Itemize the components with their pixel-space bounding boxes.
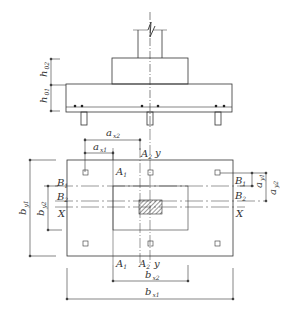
svg-text:by2: by2: [35, 201, 48, 216]
svg-text:by1: by1: [17, 200, 30, 215]
pile-right: [215, 112, 221, 125]
svg-text:bx1: bx1: [145, 286, 160, 298]
svg-text:y: y: [154, 147, 161, 158]
svg-text:X: X: [235, 208, 244, 219]
svg-text:B2: B2: [56, 191, 68, 203]
pile-left: [81, 112, 87, 125]
svg-text:h02: h02: [38, 62, 50, 77]
elevation-labels: h02 h01: [38, 62, 50, 103]
svg-text:ay2: ay2: [267, 181, 280, 195]
svg-text:A1: A1: [115, 258, 127, 270]
svg-text:X: X: [57, 208, 66, 219]
svg-text:A1: A1: [115, 166, 127, 178]
svg-text:B2: B2: [234, 190, 246, 202]
svg-text:bx2: bx2: [145, 269, 160, 281]
height-dimension: [50, 58, 66, 112]
pile-cap-diagram: h02 h01: [0, 0, 290, 318]
svg-text:ax1: ax1: [93, 141, 107, 153]
svg-text:ax2: ax2: [106, 127, 120, 139]
elevation-view: [50, 12, 232, 130]
svg-text:B1: B1: [234, 175, 246, 187]
svg-text:B1: B1: [56, 177, 68, 189]
cap-footing: [66, 84, 232, 112]
svg-text:h01: h01: [38, 88, 50, 103]
svg-text:ay1: ay1: [253, 174, 266, 188]
break-symbol-icon: [148, 22, 155, 37]
svg-text:y: y: [153, 258, 160, 269]
svg-text:A2: A2: [140, 148, 152, 160]
